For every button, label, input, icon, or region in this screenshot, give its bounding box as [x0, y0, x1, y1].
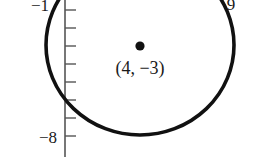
corner-label-fragment: 9	[227, 0, 236, 14]
y-axis-ticks	[65, 10, 76, 136]
center-point-label: (4, −3)	[115, 58, 164, 79]
y-tick-label-minus-8: −8	[39, 128, 57, 147]
y-tick-label-minus-1: −1	[31, 0, 49, 15]
center-point	[135, 41, 144, 50]
y-axis	[65, 0, 76, 157]
circle-diagram: −1 −8 (4, −3) 9	[0, 0, 256, 167]
